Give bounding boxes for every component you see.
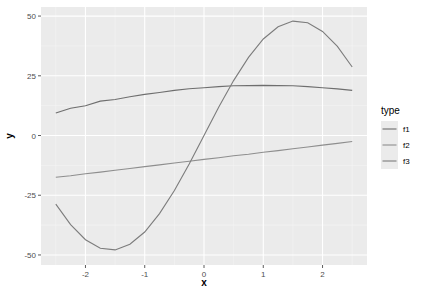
x-tick-label: -2 <box>82 270 90 279</box>
legend-label-f3: f3 <box>403 157 410 166</box>
y-axis: -50-2502550 <box>24 12 41 260</box>
x-tick-label: -1 <box>141 270 149 279</box>
x-axis-title: x <box>201 277 207 288</box>
x-tick-label: 2 <box>320 270 325 279</box>
legend-title: type <box>381 105 400 116</box>
y-axis-title: y <box>4 133 15 139</box>
x-tick-label: 1 <box>261 270 266 279</box>
legend-label-f1: f1 <box>403 125 410 134</box>
y-tick-label: 50 <box>27 12 36 21</box>
y-tick-label: -25 <box>24 191 36 200</box>
y-tick-label: -50 <box>24 251 36 260</box>
legend-label-f2: f2 <box>403 141 410 150</box>
legend: type f1f2f3 <box>381 105 410 169</box>
line-chart: -50-2502550 -2-1012 x y type f1f2f3 <box>0 0 423 294</box>
y-tick-label: 0 <box>32 132 37 141</box>
y-tick-label: 25 <box>27 72 36 81</box>
